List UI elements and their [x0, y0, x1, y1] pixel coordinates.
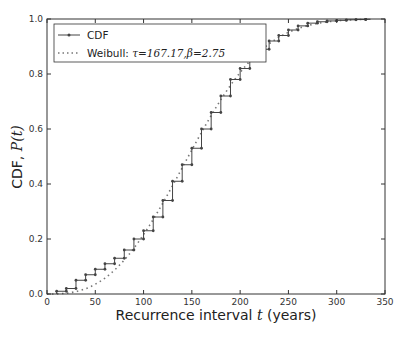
cdf-point — [316, 20, 319, 23]
y-tick-label: 0.2 — [29, 234, 43, 244]
cdf-point — [75, 279, 78, 282]
cdf-point — [123, 257, 126, 260]
x-tick-label: 50 — [90, 297, 102, 307]
legend-cdf: CDF — [87, 29, 108, 41]
cdf-point — [181, 180, 184, 183]
cdf-point — [171, 199, 174, 202]
cdf-point — [133, 249, 136, 252]
y-axis-label: CDF, P(t) — [9, 125, 25, 189]
legend-weibull: Weibull: τ=167.17,β=2.75 — [87, 47, 225, 59]
cdf-point — [142, 229, 145, 232]
x-tick-label: 100 — [135, 297, 152, 307]
cdf-point — [277, 34, 280, 37]
cdf-point — [94, 268, 97, 271]
y-tick-label: 0.0 — [29, 289, 44, 299]
y-tick-label: 0.6 — [29, 124, 44, 134]
cdf-point — [55, 290, 58, 293]
cdf-point — [277, 40, 280, 43]
y-tick-label: 1.0 — [29, 14, 44, 24]
cdf-point — [65, 290, 68, 293]
cdf-point — [161, 199, 164, 202]
cdf-point — [104, 262, 107, 265]
cdf-point — [113, 262, 116, 265]
cdf-point — [113, 257, 116, 260]
x-tick-label: 250 — [280, 297, 297, 307]
cdf-point — [297, 24, 300, 27]
y-tick-label: 0.8 — [29, 69, 44, 79]
cdf-point — [181, 163, 184, 166]
cdf-point — [326, 20, 329, 23]
cdf-point — [75, 287, 78, 290]
cdf-point — [287, 29, 290, 32]
cdf-point — [152, 216, 155, 219]
y-tick-label: 0.4 — [29, 179, 44, 189]
cdf-point — [306, 22, 309, 25]
cdf-point — [84, 279, 87, 282]
cdf-point — [142, 238, 145, 241]
x-tick-label: 300 — [328, 297, 345, 307]
cdf-point — [200, 128, 203, 131]
x-tick-label: 0 — [44, 297, 50, 307]
cdf-point — [152, 229, 155, 232]
cdf-point — [268, 40, 271, 43]
cdf-point — [297, 29, 300, 32]
cdf-point — [219, 111, 222, 114]
legend: CDF Weibull: τ=167.17,β=2.75 — [54, 24, 266, 62]
cdf-point — [229, 95, 232, 98]
cdf-point — [104, 268, 107, 271]
cdf-point — [65, 287, 68, 290]
cdf-point — [190, 163, 193, 166]
x-tick-label: 200 — [232, 297, 249, 307]
cdf-point — [84, 273, 87, 276]
cdf-point — [190, 147, 193, 150]
cdf-point — [287, 34, 290, 37]
cdf-chart: 0501001502002503003500.00.20.40.60.81.0 … — [0, 0, 410, 338]
x-tick-label: 350 — [376, 297, 393, 307]
cdf-point — [306, 24, 309, 27]
cdf-point — [94, 273, 97, 276]
cdf-point — [161, 216, 164, 219]
cdf-point — [268, 48, 271, 51]
x-axis-label: Recurrence interval t (years) — [116, 307, 317, 323]
cdf-point — [229, 78, 232, 81]
cdf-point — [248, 67, 251, 70]
cdf-point — [219, 95, 222, 98]
cdf-point — [239, 78, 242, 81]
cdf-point — [200, 147, 203, 150]
cdf-point — [171, 180, 174, 183]
cdf-point — [210, 111, 213, 114]
cdf-point — [123, 249, 126, 252]
cdf-point — [210, 128, 213, 131]
cdf-point — [239, 67, 242, 70]
cdf-point — [133, 238, 136, 241]
x-tick-label: 150 — [183, 297, 200, 307]
